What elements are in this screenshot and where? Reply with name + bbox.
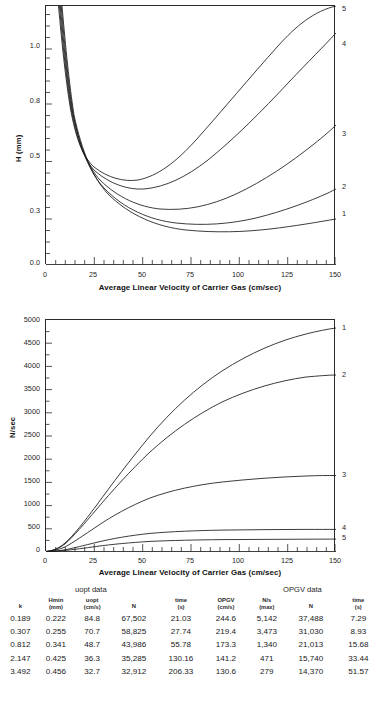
x-tick-label-bottom-25: 25 <box>83 556 103 565</box>
plot-curves-top <box>46 6 336 265</box>
cell-ns-max: 1,340 <box>247 638 286 651</box>
x-tick-label-bottom-0: 0 <box>35 556 55 565</box>
cell-hmin: 0.255 <box>38 625 74 638</box>
curve-top-4 <box>59 6 336 189</box>
cell-ns-max: 5,142 <box>247 612 286 625</box>
cell-time-opgv: 15.68 <box>336 638 381 651</box>
curve-label-top-4: 4 <box>342 39 346 48</box>
curve-top-1 <box>62 6 336 232</box>
table-body: 0.189 0.222 84.8 67,502 21.03 244.6 5,14… <box>3 612 381 678</box>
curve-top-2 <box>61 6 336 224</box>
cell-time-opgv: 8.93 <box>336 625 381 638</box>
y-tick-label-bottom-3000: 3000 <box>10 407 40 416</box>
table-header-row: k Hmin(mm) uopt(cm/s) N time(s) OPGV(cm/… <box>3 597 381 612</box>
curve-label-top-5: 5 <box>342 4 346 13</box>
cell-hmin: 0.456 <box>38 665 74 678</box>
table-row: 0.189 0.222 84.8 67,502 21.03 244.6 5,14… <box>3 612 381 625</box>
cell-opgv: 173.3 <box>205 638 247 651</box>
cell-n-uopt: 32,912 <box>110 665 157 678</box>
cell-opgv: 244.6 <box>205 612 247 625</box>
th-time-uopt: time(s) <box>157 597 205 612</box>
curve-label-bottom-2: 2 <box>342 370 346 379</box>
x-axis-title-top: Average Linear Velocity of Carrier Gas (… <box>45 283 335 292</box>
cell-hmin: 0.222 <box>38 612 74 625</box>
x-tick-label-top-75: 75 <box>180 270 200 279</box>
curve-label-bottom-4: 4 <box>342 523 346 532</box>
x-axis-title-bottom: Average Linear Velocity of Carrier Gas (… <box>45 568 335 577</box>
cell-time-uopt: 55.78 <box>157 638 205 651</box>
chart-panel-plates-per-second: N/sec 5000 4500 4000 3500 3000 2500 2000… <box>0 298 384 584</box>
cell-opgv: 219.4 <box>205 625 247 638</box>
curve-label-bottom-5: 5 <box>342 533 346 542</box>
plot-area-bottom <box>45 319 335 551</box>
cell-time-uopt: 27.74 <box>157 625 205 638</box>
cell-n-opgv: 31,030 <box>286 625 335 638</box>
cell-uopt: 32.7 <box>74 665 110 678</box>
table-row: 0.812 0.341 48.7 43,986 55.78 173.3 1,34… <box>3 638 381 651</box>
x-tick-label-bottom-75: 75 <box>180 556 200 565</box>
th-opgv: OPGV(cm/s) <box>205 597 247 612</box>
y-tick-label-bottom-1500: 1500 <box>10 476 40 485</box>
x-tick-label-top-0: 0 <box>35 270 55 279</box>
cell-n-opgv: 14,370 <box>286 665 335 678</box>
cell-uopt: 70.7 <box>74 625 110 638</box>
data-table-block: uopt data OPGV data k Hmin(mm) uopt(cm/s… <box>0 584 384 678</box>
cell-hmin: 0.341 <box>38 638 74 651</box>
th-ns-max: N/s(max) <box>247 597 286 612</box>
y-tick-label-bottom-5000: 5000 <box>10 315 40 324</box>
cell-time-opgv: 51.57 <box>336 665 381 678</box>
table-group-headers: uopt data OPGV data <box>0 584 384 597</box>
curve-top-3 <box>60 6 336 209</box>
table-row: 0.307 0.255 70.7 58,825 27.74 219.4 3,47… <box>3 625 381 638</box>
y-tick-label-top-0.8: 0.8 <box>18 96 40 105</box>
y-tick-label-top-0.0: 0.0 <box>18 258 40 267</box>
chart-panel-plate-height: H (mm) 1.0 0.8 0.5 0.3 0.0 <box>0 0 384 292</box>
plot-area-top <box>45 5 335 264</box>
y-tick-label-bottom-500: 500 <box>10 522 40 531</box>
cell-uopt: 36.3 <box>74 652 110 665</box>
figure-root: H (mm) 1.0 0.8 0.5 0.3 0.0 <box>0 0 384 712</box>
cell-time-uopt: 130.16 <box>157 652 205 665</box>
x-tick-label-top-125: 125 <box>277 270 297 279</box>
y-tick-label-bottom-1000: 1000 <box>10 499 40 508</box>
performance-table: k Hmin(mm) uopt(cm/s) N time(s) OPGV(cm/… <box>3 597 381 678</box>
y-tick-label-bottom-2000: 2000 <box>10 453 40 462</box>
cell-n-opgv: 37,488 <box>286 612 335 625</box>
th-time-opgv: time(s) <box>336 597 381 612</box>
cell-k: 0.307 <box>3 625 38 638</box>
cell-time-opgv: 7.29 <box>336 612 381 625</box>
th-n-uopt: N <box>110 597 157 612</box>
cell-time-uopt: 206.33 <box>157 665 205 678</box>
table-row: 3.492 0.456 32.7 32,912 206.33 130.6 279… <box>3 665 381 678</box>
x-tick-label-top-25: 25 <box>83 270 103 279</box>
group-title-uopt: uopt data <box>75 585 107 594</box>
cell-k: 3.492 <box>3 665 38 678</box>
x-tick-label-bottom-125: 125 <box>277 556 297 565</box>
x-tick-label-top-150: 150 <box>325 270 345 279</box>
y-tick-label-top-1.0: 1.0 <box>18 41 40 50</box>
cell-uopt: 84.8 <box>74 612 110 625</box>
x-tick-label-bottom-150: 150 <box>325 556 345 565</box>
cell-hmin: 0.425 <box>38 652 74 665</box>
cell-time-opgv: 33.44 <box>336 652 381 665</box>
y-tick-label-top-0.3: 0.3 <box>18 206 40 215</box>
y-tick-label-bottom-2500: 2500 <box>10 430 40 439</box>
cell-n-uopt: 35,285 <box>110 652 157 665</box>
th-k: k <box>3 597 38 612</box>
cell-opgv: 141.2 <box>205 652 247 665</box>
y-tick-label-bottom-3500: 3500 <box>10 384 40 393</box>
group-title-opgv: OPGV data <box>283 585 322 594</box>
cell-n-opgv: 21,013 <box>286 638 335 651</box>
cell-ns-max: 471 <box>247 652 286 665</box>
plot-curves-bottom <box>46 320 336 552</box>
cell-n-uopt: 67,502 <box>110 612 157 625</box>
table-row: 2.147 0.425 36.3 35,285 130.16 141.2 471… <box>3 652 381 665</box>
y-tick-label-bottom-4000: 4000 <box>10 361 40 370</box>
cell-time-uopt: 21.03 <box>157 612 205 625</box>
cell-opgv: 130.6 <box>205 665 247 678</box>
x-tick-label-top-100: 100 <box>228 270 248 279</box>
cell-ns-max: 279 <box>247 665 286 678</box>
cell-k: 0.812 <box>3 638 38 651</box>
cell-n-opgv: 15,740 <box>286 652 335 665</box>
cell-n-uopt: 58,825 <box>110 625 157 638</box>
